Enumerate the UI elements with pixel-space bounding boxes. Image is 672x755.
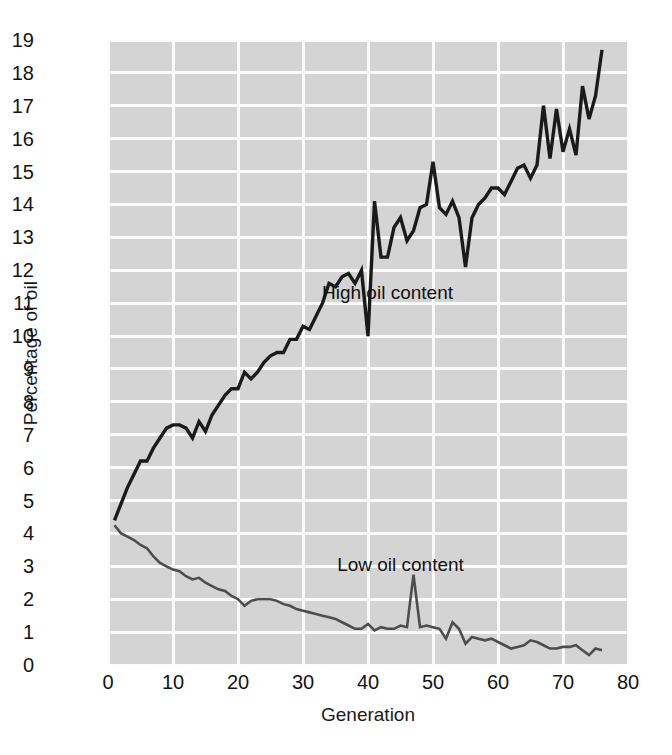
y-axis-tick-label: 9 xyxy=(0,359,34,379)
y-axis-tick-label: 11 xyxy=(0,293,34,313)
y-axis-tick-label: 13 xyxy=(0,227,34,247)
y-axis-tick-label: 0 xyxy=(0,655,34,675)
y-axis-tick-label: 3 xyxy=(0,556,34,576)
x-axis-tick-label: 60 xyxy=(473,672,523,692)
y-axis-tick-label: 19 xyxy=(0,30,34,50)
series-annotation-label: High oil content xyxy=(322,282,453,304)
y-axis-tick-label: 7 xyxy=(0,425,34,445)
plot-area: High oil contentLow oil content xyxy=(108,40,628,665)
x-axis-tick-label: 70 xyxy=(538,672,588,692)
y-axis-tick-label: 10 xyxy=(0,326,34,346)
y-axis-tick-label: 6 xyxy=(0,458,34,478)
y-axis-tick-label: 2 xyxy=(0,589,34,609)
series-annotation-label: Low oil content xyxy=(337,554,464,576)
y-axis-tick-label: 14 xyxy=(0,194,34,214)
y-axis-tick-label: 15 xyxy=(0,162,34,182)
x-axis-tick-label: 0 xyxy=(83,672,133,692)
x-axis-tick-label: 20 xyxy=(213,672,263,692)
y-axis-tick-label: 12 xyxy=(0,260,34,280)
y-axis-tick-label: 8 xyxy=(0,392,34,412)
y-axis-tick-label: 1 xyxy=(0,622,34,642)
x-axis-tick-label: 50 xyxy=(408,672,458,692)
x-axis-tick-label: 30 xyxy=(278,672,328,692)
x-axis-tick-label: 40 xyxy=(343,672,393,692)
x-axis-title: Generation xyxy=(108,704,628,726)
series-line xyxy=(115,525,603,655)
y-axis-tick-label: 16 xyxy=(0,129,34,149)
oil-percentage-line-chart: Percentage of oil 0123456789101112131415… xyxy=(0,0,672,755)
y-axis-tick-label: 5 xyxy=(0,491,34,511)
y-axis-tick-label: 18 xyxy=(0,63,34,83)
y-axis-tick-label: 17 xyxy=(0,96,34,116)
y-axis-tick-label: 4 xyxy=(0,523,34,543)
x-axis-tick-label: 10 xyxy=(148,672,198,692)
x-axis-tick-label: 80 xyxy=(603,672,653,692)
